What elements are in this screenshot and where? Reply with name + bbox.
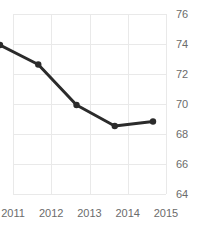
y-axis-tick-label: 76 (176, 9, 204, 20)
y-axis-tick-label: 68 (176, 129, 204, 140)
data-point-marker (112, 123, 118, 129)
line-chart: Freedom Trend 76747270686664 20112012201… (0, 0, 206, 227)
series-line-freedom-trend (0, 45, 153, 126)
y-axis-tick-label: 64 (176, 189, 204, 200)
series-layer (0, 0, 193, 213)
y-axis-tick-label: 74 (176, 39, 204, 50)
data-point-marker (150, 118, 156, 124)
x-axis-tick-label: 2015 (145, 208, 187, 219)
x-axis-tick-label: 2012 (30, 208, 72, 219)
y-axis-tick-label: 72 (176, 69, 204, 80)
y-axis-tick-label: 66 (176, 159, 204, 170)
x-axis-tick-label: 2011 (0, 208, 34, 219)
x-axis-tick-label: 2014 (107, 208, 149, 219)
data-point-marker (73, 102, 79, 108)
x-axis-tick-label: 2013 (69, 208, 111, 219)
y-axis-tick-label: 70 (176, 99, 204, 110)
data-point-marker (35, 61, 41, 67)
series-markers (0, 42, 156, 129)
